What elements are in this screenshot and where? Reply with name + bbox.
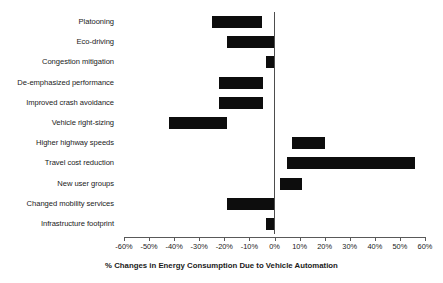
category-label: New user groups <box>0 179 114 188</box>
category-label: Vehicle right-sizing <box>0 118 114 127</box>
x-tick <box>400 237 401 241</box>
x-tick <box>375 237 376 241</box>
bar <box>280 178 303 190</box>
category-label: Higher highway speeds <box>0 138 114 147</box>
x-tick <box>325 237 326 241</box>
x-tick <box>275 237 276 241</box>
x-tick <box>149 237 150 241</box>
bar <box>219 97 263 109</box>
category-axis-labels: PlatooningEco-drivingCongestion mitigati… <box>0 12 118 234</box>
x-tick <box>350 237 351 241</box>
bar <box>227 36 275 48</box>
energy-consumption-range-chart: PlatooningEco-drivingCongestion mitigati… <box>0 0 443 283</box>
x-axis-title: % Changes in Energy Consumption Due to V… <box>0 261 443 271</box>
x-tick <box>300 237 301 241</box>
x-tick <box>425 237 426 241</box>
x-tick <box>249 237 250 241</box>
category-label: Congestion mitigation <box>0 57 114 66</box>
category-label: Improved crash avoidance <box>0 98 114 107</box>
category-label: Infrastructure footprint <box>0 219 114 228</box>
x-tick <box>199 237 200 241</box>
plot-area <box>124 12 425 234</box>
bar <box>292 137 325 149</box>
bar <box>287 157 415 169</box>
bar <box>266 56 275 68</box>
category-label: Travel cost reduction <box>0 158 114 167</box>
bar <box>219 77 263 89</box>
bar <box>266 218 275 230</box>
bar <box>169 117 227 129</box>
category-label: Changed mobility services <box>0 199 114 208</box>
category-label: De-emphasized performance <box>0 78 114 87</box>
category-label: Platooning <box>0 17 114 26</box>
x-tick <box>124 237 125 241</box>
bar <box>212 16 262 28</box>
x-tick <box>224 237 225 241</box>
x-tick-label: 60% <box>405 242 443 251</box>
x-tick <box>174 237 175 241</box>
category-label: Eco-driving <box>0 37 114 46</box>
bar <box>227 198 275 210</box>
